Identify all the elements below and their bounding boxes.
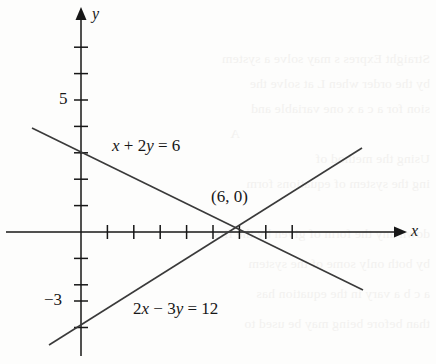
x-axis [6,227,407,238]
equation-label-line-2: 2x − 3y = 12 [133,299,218,319]
equation-text: 2x − 3y = 12 [133,299,218,318]
y-tick-label-5: 5 [59,89,68,109]
x-axis-label: x [411,222,418,240]
equation-label-line-1: x + 2y = 6 [112,136,180,156]
equation-text: x + 2y = 6 [112,136,180,155]
y-axis-arrowhead [76,7,87,20]
y-tick-label-minus-3: −3 [44,290,62,310]
intersection-point-label: (6, 0) [211,187,248,207]
x-axis-arrowhead [394,227,407,238]
graph-figure: Straight Expres s may solve a system by … [0,0,436,364]
y-axis [76,7,87,356]
y-axis-label: y [92,5,99,23]
